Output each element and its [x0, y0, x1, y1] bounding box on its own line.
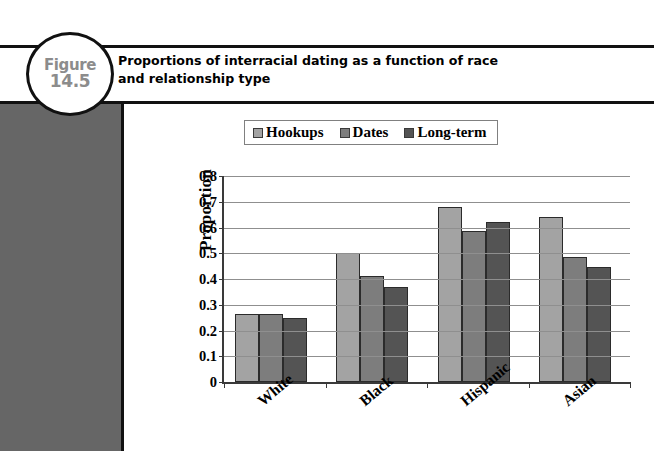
x-axis-tick-mark — [326, 382, 327, 388]
legend-item[interactable]: Long-term — [404, 124, 486, 141]
y-axis-tick-mark — [219, 279, 224, 280]
y-axis-tick-label: 0.4 — [199, 271, 217, 288]
y-axis-tick-mark — [219, 228, 224, 229]
y-axis-tick-label: 0 — [210, 374, 217, 391]
y-axis-tick-mark — [219, 305, 224, 306]
y-axis-tick-mark — [219, 202, 224, 203]
left-gray-panel — [0, 104, 124, 451]
gridline — [224, 253, 630, 254]
gridline — [224, 279, 630, 280]
legend-swatch-icon — [253, 128, 263, 138]
figure-badge-number: 14.5 — [50, 73, 90, 90]
bar — [259, 314, 283, 382]
gridline — [224, 228, 630, 229]
bar — [563, 257, 587, 382]
y-axis-tick-label: 0.7 — [199, 193, 217, 210]
y-axis-tick-mark — [219, 331, 224, 332]
figure-title-line-2: and relationship type — [118, 70, 538, 88]
x-axis-tick-mark — [224, 382, 225, 388]
figure-number-badge: Figure 14.5 — [26, 32, 114, 116]
bar — [539, 217, 563, 382]
legend-label: Hookups — [266, 124, 324, 141]
legend-label: Long-term — [417, 124, 486, 141]
x-axis-tick-mark — [529, 382, 530, 388]
y-axis-tick-label: 0.1 — [199, 348, 217, 365]
legend-item[interactable]: Hookups — [253, 124, 324, 141]
bar — [587, 267, 611, 382]
gridline — [224, 176, 630, 177]
gridline — [224, 356, 630, 357]
figure-title: Proportions of interracial dating as a f… — [118, 52, 538, 89]
gridline — [224, 202, 630, 203]
bar — [235, 314, 259, 382]
legend-item[interactable]: Dates — [340, 124, 389, 141]
bar — [336, 253, 360, 382]
y-axis-tick-label: 0.2 — [199, 322, 217, 339]
legend-label: Dates — [353, 124, 389, 141]
y-axis-tick-mark — [219, 356, 224, 357]
legend-swatch-icon — [340, 128, 350, 138]
x-axis-tick-mark — [630, 382, 631, 388]
bar — [384, 287, 408, 382]
gridline — [224, 331, 630, 332]
chart-legend: HookupsDatesLong-term — [244, 120, 498, 145]
bar — [360, 276, 384, 382]
y-axis-tick-label: 0.5 — [199, 245, 217, 262]
y-axis-tick-label: 0.8 — [199, 168, 217, 185]
gridline — [224, 305, 630, 306]
bar-chart: HookupsDatesLong-term Proportion 0.80.70… — [127, 104, 654, 451]
legend-swatch-icon — [404, 128, 414, 138]
y-axis-tick-label: 0.3 — [199, 296, 217, 313]
y-axis-tick-label: 0.6 — [199, 219, 217, 236]
y-axis-tick-mark — [219, 253, 224, 254]
y-axis-tick-mark — [219, 176, 224, 177]
figure-title-line-1: Proportions of interracial dating as a f… — [118, 52, 538, 70]
bar — [486, 222, 510, 382]
figure-page: Figure 14.5 Proportions of interracial d… — [0, 0, 654, 451]
plot-area: 0.80.70.60.50.40.30.20.10WhiteBlackHispa… — [222, 176, 630, 384]
x-axis-tick-mark — [427, 382, 428, 388]
